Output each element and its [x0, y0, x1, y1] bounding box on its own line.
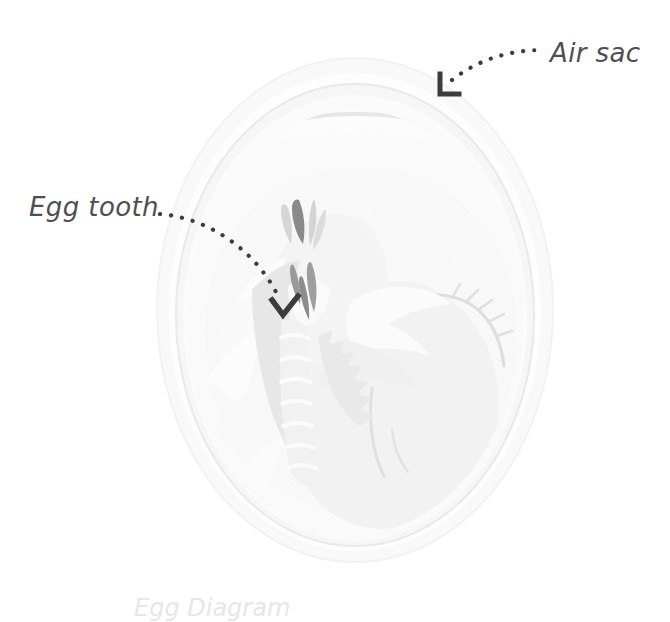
figure-caption: Egg Diagram: [134, 596, 290, 620]
callout-air-sac: [440, 50, 544, 94]
air-sac-leader-line: [452, 50, 544, 80]
air-sac-label: Air sac: [550, 40, 641, 66]
egg-tooth-label: Egg tooth: [29, 194, 159, 220]
